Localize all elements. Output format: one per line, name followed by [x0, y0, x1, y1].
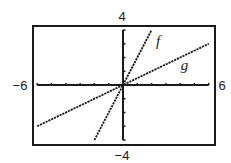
x-max-label: 6	[218, 78, 225, 93]
x-min-label: −6	[13, 78, 28, 93]
axes	[37, 30, 209, 140]
series-f-label: f	[156, 33, 162, 49]
graph-window: fg 4 −4 −6 6	[0, 0, 231, 163]
y-min-label: −4	[115, 148, 130, 163]
series-g-label: g	[181, 57, 189, 73]
y-max-label: 4	[118, 9, 125, 24]
